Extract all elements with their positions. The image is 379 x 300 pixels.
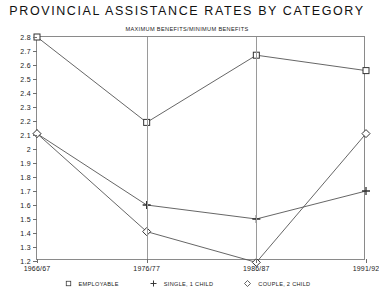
y-axis-label: 1.4	[20, 230, 31, 237]
series-line	[37, 134, 366, 219]
y-axis-tick	[33, 107, 37, 108]
y-axis-tick	[33, 79, 37, 80]
y-axis-tick	[33, 51, 37, 52]
legend-item[interactable]: SINGLE, 1 CHILD	[149, 279, 214, 288]
y-axis-tick	[33, 247, 37, 248]
y-axis-tick	[33, 93, 37, 94]
y-axis-tick	[33, 205, 37, 206]
plus-marker-icon	[150, 281, 156, 287]
x-axis-label: 1991/92	[353, 265, 379, 272]
y-axis-label: 1.7	[20, 188, 31, 195]
y-axis-tick	[33, 191, 37, 192]
y-axis-tick	[33, 233, 37, 234]
y-axis-label: 2.7	[20, 48, 31, 55]
legend-label: EMPLOYABLE	[79, 281, 119, 287]
x-axis-tick	[147, 259, 148, 263]
y-axis-label: 2	[27, 146, 31, 153]
y-axis-label: 2.1	[20, 132, 31, 139]
plot-inner: 2.82.72.62.52.42.32.22.121.91.81.71.61.5…	[37, 37, 364, 259]
y-axis-label: 2.8	[20, 34, 31, 41]
y-axis-tick	[33, 219, 37, 220]
diamond-marker-icon	[245, 281, 251, 287]
y-axis-label: 1.6	[20, 202, 31, 209]
y-axis-label: 1.9	[20, 160, 31, 167]
category-rule	[147, 37, 148, 259]
chart-title: PROVINCIAL ASSISTANCE RATES BY CATEGORY	[0, 4, 374, 18]
y-axis-label: 1.8	[20, 174, 31, 181]
series-line	[37, 37, 366, 122]
square-marker-icon	[363, 68, 369, 74]
x-axis-label: 1986/87	[243, 265, 270, 272]
legend-label: SINGLE, 1 CHILD	[164, 281, 214, 287]
series-layer	[37, 37, 366, 261]
chart-subtitle: MAXIMUM BENEFITS/MINIMUM BENEFITS	[0, 26, 374, 32]
plus-marker-icon	[149, 279, 158, 288]
square-marker-icon	[66, 281, 71, 286]
y-axis-tick	[33, 149, 37, 150]
x-axis-label: 1976/77	[133, 265, 160, 272]
y-axis-label: 2.4	[20, 90, 31, 97]
y-axis-label: 2.5	[20, 76, 31, 83]
diamond-marker-icon	[243, 279, 252, 288]
y-axis-label: 1.3	[20, 244, 31, 251]
plus-marker-icon	[362, 187, 370, 195]
y-axis-tick	[33, 163, 37, 164]
plot-area: 2.82.72.62.52.42.32.22.121.91.81.71.61.5…	[36, 36, 365, 260]
y-axis-tick	[33, 121, 37, 122]
category-rule	[256, 37, 257, 259]
y-axis-label: 1.2	[20, 258, 31, 265]
legend-item[interactable]: COUPLE, 2 CHILD	[243, 279, 310, 288]
y-axis-tick	[33, 65, 37, 66]
x-axis-tick	[366, 259, 367, 263]
y-axis-tick	[33, 177, 37, 178]
x-axis-tick	[256, 259, 257, 263]
y-axis-label: 2.3	[20, 104, 31, 111]
y-axis-label: 1.5	[20, 216, 31, 223]
x-axis-label: 1966/67	[24, 265, 51, 272]
y-axis-tick	[33, 135, 37, 136]
chart-legend: EMPLOYABLESINGLE, 1 CHILDCOUPLE, 2 CHILD	[0, 279, 374, 288]
legend-item[interactable]: EMPLOYABLE	[64, 279, 119, 288]
square-marker-icon	[64, 279, 73, 288]
legend-label: COUPLE, 2 CHILD	[258, 281, 310, 287]
series-line	[37, 134, 366, 263]
y-axis-label: 2.6	[20, 62, 31, 69]
x-axis-tick	[37, 259, 38, 263]
y-axis-tick	[33, 37, 37, 38]
y-axis-label: 2.2	[20, 118, 31, 125]
